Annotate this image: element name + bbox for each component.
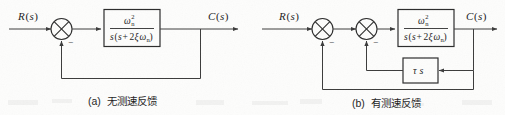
- paper-grain: [0, 0, 505, 115]
- block-diagram-svg: − ω n 2 s ( s + 2: [0, 0, 505, 115]
- figure-canvas: − ω n 2 s ( s + 2: [0, 0, 505, 115]
